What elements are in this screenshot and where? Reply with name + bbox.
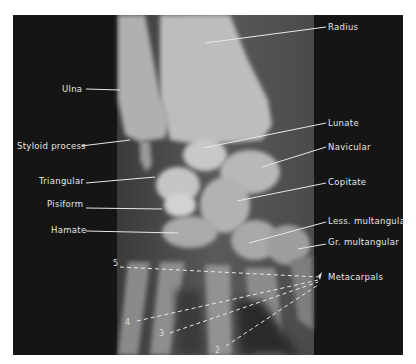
pisiform-bone [164, 193, 196, 217]
label-less-multangular: Less. multangular [328, 216, 409, 226]
metacarpal-number-3: 3 [159, 329, 164, 339]
soft-tissue-gap [175, 290, 205, 355]
label-gr-multangular: Gr. multangular [328, 237, 399, 247]
label-hamate: Hamate [51, 225, 86, 235]
label-radius: Radius [328, 22, 358, 32]
label-metacarpals: Metacarpals [328, 272, 383, 282]
label-triangular: Triangular [39, 176, 84, 186]
label-navicular: Navicular [328, 142, 371, 152]
label-lunate: Lunate [328, 118, 359, 128]
label-copitate: Copitate [328, 177, 366, 187]
metacarpal-3 [205, 265, 232, 355]
label-styloid-process: Styloid process [17, 141, 86, 151]
metacarpal-number-4: 4 [125, 318, 130, 328]
metacarpal-number-5: 5 [113, 259, 118, 269]
xray-figure: RadiusUlnaStyloid processLunateNavicular… [13, 15, 403, 355]
lunate-bone [183, 139, 227, 171]
metacarpal-number-2: 2 [215, 346, 220, 356]
label-pisiform: Pisiform [47, 199, 83, 209]
label-ulna: Ulna [62, 84, 82, 94]
hamate-bone [162, 216, 218, 248]
